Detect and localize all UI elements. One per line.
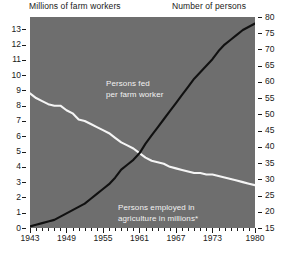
- right-axis-tick-mark: [258, 82, 262, 83]
- x-axis-minor-tick: [249, 228, 250, 231]
- right-axis-tick-mark: [258, 66, 262, 67]
- x-axis-minor-tick: [158, 228, 159, 231]
- x-axis-minor-tick: [243, 228, 244, 231]
- right-axis-tick-mark: [258, 228, 262, 229]
- left-axis-tick-label: 8: [16, 101, 21, 110]
- right-axis-tick-label: 45: [265, 126, 274, 135]
- x-axis-minor-tick: [231, 228, 232, 231]
- right-axis-tick-mark: [258, 163, 262, 164]
- right-axis-tick-label: 35: [265, 159, 274, 168]
- right-axis-tick-mark: [258, 147, 262, 148]
- x-axis-minor-tick: [48, 228, 49, 231]
- left-axis-tick-label: 5: [16, 147, 21, 156]
- left-axis-tick-label: 3: [16, 178, 21, 187]
- x-axis-minor-tick: [225, 228, 226, 231]
- left-axis-tick-label: 4: [16, 162, 21, 171]
- x-axis-minor-tick: [200, 228, 201, 231]
- x-axis-tick-label: 1961: [130, 234, 149, 243]
- left-axis: 012345678910111213: [2, 17, 26, 228]
- x-axis-minor-tick: [152, 228, 153, 231]
- x-axis-minor-tick: [109, 228, 110, 231]
- left-axis-tick-label: 6: [16, 132, 21, 141]
- x-axis-minor-tick: [146, 228, 147, 231]
- left-axis-tick-mark: [22, 167, 26, 168]
- left-axis-tick-label: 12: [12, 40, 21, 49]
- left-axis-tick-label: 2: [16, 193, 21, 202]
- left-axis-tick-label: 9: [16, 86, 21, 95]
- x-axis-minor-tick: [121, 228, 122, 231]
- right-axis-tick-mark: [258, 33, 262, 34]
- right-axis-tick-label: 50: [265, 110, 274, 119]
- right-axis-tick-mark: [258, 114, 262, 115]
- x-axis-minor-tick: [237, 228, 238, 231]
- x-axis-minor-tick: [54, 228, 55, 231]
- left-axis-tick-mark: [22, 152, 26, 153]
- series-canvas: [30, 17, 255, 228]
- x-axis-minor-tick: [97, 228, 98, 231]
- left-axis-title: Millions of farm workers: [29, 1, 121, 11]
- right-axis-tick-label: 70: [265, 45, 274, 54]
- left-axis-tick-label: 0: [16, 224, 21, 233]
- x-axis-minor-tick: [79, 228, 80, 231]
- right-axis-tick-label: 75: [265, 29, 274, 38]
- left-axis-tick-mark: [22, 106, 26, 107]
- x-axis-minor-tick: [42, 228, 43, 231]
- right-axis-tick-mark: [258, 49, 262, 50]
- x-axis-minor-tick: [170, 228, 171, 231]
- x-axis-minor-tick: [60, 228, 61, 231]
- x-axis-minor-tick: [91, 228, 92, 231]
- x-axis-minor-tick: [219, 228, 220, 231]
- x-axis-tick-label: 1980: [246, 234, 265, 243]
- x-axis-minor-tick: [164, 228, 165, 231]
- left-axis-tick-mark: [22, 197, 26, 198]
- left-axis-tick-label: 11: [12, 55, 21, 64]
- series-line-persons-employed: [30, 93, 255, 185]
- x-axis: 1943194919551961196719731980: [30, 228, 255, 252]
- right-axis-tick-label: 20: [265, 207, 274, 216]
- right-axis: 1520253035404550556065707580: [258, 17, 282, 228]
- left-axis-tick-mark: [22, 90, 26, 91]
- right-axis-tick-label: 25: [265, 191, 274, 200]
- x-axis-tick-label: 1943: [21, 234, 40, 243]
- left-axis-tick-mark: [22, 228, 26, 229]
- x-axis-tick-label: 1967: [166, 234, 185, 243]
- right-axis-tick-mark: [258, 98, 262, 99]
- x-axis-tick-label: 1973: [203, 234, 222, 243]
- x-axis-minor-tick: [85, 228, 86, 231]
- right-axis-tick-label: 65: [265, 61, 274, 70]
- right-axis-tick-label: 30: [265, 175, 274, 184]
- right-axis-tick-mark: [258, 179, 262, 180]
- right-axis-tick-mark: [258, 131, 262, 132]
- left-axis-tick-mark: [22, 121, 26, 122]
- right-axis-tick-mark: [258, 196, 262, 197]
- x-axis-minor-tick: [182, 228, 183, 231]
- x-axis-minor-tick: [115, 228, 116, 231]
- left-axis-tick-mark: [22, 75, 26, 76]
- right-axis-tick-mark: [258, 212, 262, 213]
- x-axis-minor-tick: [127, 228, 128, 231]
- left-axis-tick-mark: [22, 60, 26, 61]
- right-axis-tick-mark: [258, 17, 262, 18]
- right-axis-tick-label: 40: [265, 142, 274, 151]
- x-axis-minor-tick: [73, 228, 74, 231]
- right-axis-title: Number of persons: [172, 1, 246, 11]
- annotation-persons-employed: Persons employed in agriculture in milli…: [118, 203, 198, 225]
- left-axis-tick-mark: [22, 136, 26, 137]
- x-axis-minor-tick: [133, 228, 134, 231]
- chart-figure: Millions of farm workers Number of perso…: [0, 0, 284, 256]
- left-axis-tick-mark: [22, 182, 26, 183]
- left-axis-tick-label: 10: [12, 71, 21, 80]
- x-axis-minor-tick: [194, 228, 195, 231]
- right-axis-tick-label: 55: [265, 94, 274, 103]
- plot-area: Persons fed per farm worker Persons empl…: [30, 17, 255, 228]
- left-axis-tick-label: 13: [12, 25, 21, 34]
- x-axis-tick-label: 1949: [57, 234, 76, 243]
- x-axis-minor-tick: [36, 228, 37, 231]
- annotation-persons-fed: Persons fed per farm worker: [106, 79, 164, 101]
- right-axis-tick-label: 60: [265, 77, 274, 86]
- right-axis-tick-label: 80: [265, 13, 274, 22]
- left-axis-tick-label: 7: [16, 116, 21, 125]
- right-axis-tick-label: 15: [265, 224, 274, 233]
- x-axis-minor-tick: [206, 228, 207, 231]
- x-axis-tick-label: 1955: [94, 234, 113, 243]
